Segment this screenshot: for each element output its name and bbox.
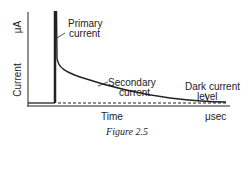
y-axis-label: Current xyxy=(12,63,23,97)
x-axis-label: Time xyxy=(101,111,123,122)
y-axis-unit: μA xyxy=(12,20,23,33)
dark-current-label-line2: level xyxy=(197,91,218,102)
figure-caption: Figure 2.5 xyxy=(105,126,148,137)
secondary-label-line2: current xyxy=(119,87,150,98)
x-axis-unit: μsec xyxy=(205,111,226,122)
primary-leader xyxy=(57,33,65,38)
figure-2-5: μA Current Primary current Secondary cur… xyxy=(0,0,250,178)
primary-label-line2: current xyxy=(69,28,100,39)
